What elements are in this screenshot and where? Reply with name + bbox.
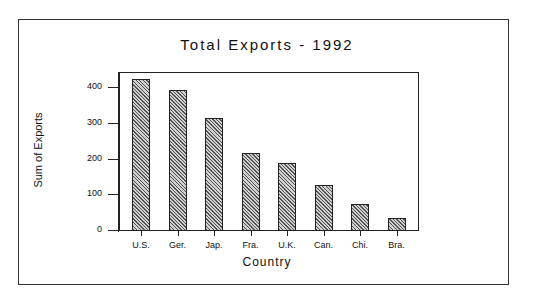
- x-tick-label: U.K.: [267, 240, 307, 250]
- bar-chi: [351, 204, 369, 231]
- plot-area: [119, 72, 419, 231]
- bar-ger: [169, 90, 187, 231]
- y-tick: [108, 123, 118, 124]
- bar-uk: [278, 163, 296, 231]
- bar-jap: [205, 118, 223, 231]
- y-tick-label: 200: [78, 153, 102, 163]
- y-tick-label: 100: [78, 188, 102, 198]
- y-tick: [108, 87, 118, 88]
- x-tick-label: Fra.: [231, 240, 271, 250]
- x-tick-label: Bra.: [377, 240, 417, 250]
- x-tick: [324, 231, 325, 236]
- y-tick: [108, 230, 118, 231]
- bar-fra: [242, 153, 260, 231]
- bar-bra: [388, 218, 406, 231]
- x-tick: [287, 231, 288, 236]
- y-axis-title: Sum of Exports: [32, 95, 44, 205]
- x-tick: [397, 231, 398, 236]
- x-axis-line: [112, 230, 419, 231]
- y-tick: [108, 159, 118, 160]
- x-tick-label: Chi.: [340, 240, 380, 250]
- y-tick-label: 300: [78, 117, 102, 127]
- y-tick-label: 400: [78, 81, 102, 91]
- x-tick-label: Jap.: [194, 240, 234, 250]
- y-tick: [108, 194, 118, 195]
- x-axis-title: Country: [0, 255, 534, 269]
- y-axis-line: [118, 72, 119, 232]
- y-tick-label: 0: [78, 224, 102, 234]
- x-tick-label: U.S.: [121, 240, 161, 250]
- x-tick: [178, 231, 179, 236]
- bar-can: [315, 185, 333, 231]
- x-tick: [214, 231, 215, 236]
- x-tick-label: Ger.: [158, 240, 198, 250]
- x-tick-label: Can.: [304, 240, 344, 250]
- bar-us: [132, 79, 150, 231]
- x-tick: [251, 231, 252, 236]
- chart-title: Total Exports - 1992: [0, 36, 534, 53]
- x-tick: [141, 231, 142, 236]
- x-tick: [360, 231, 361, 236]
